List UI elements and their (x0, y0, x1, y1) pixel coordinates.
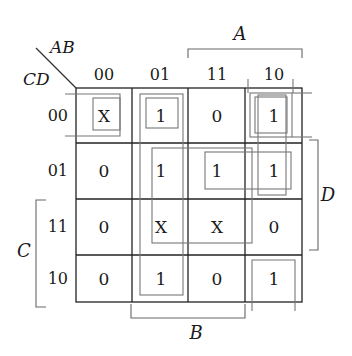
bracket-D (309, 140, 318, 250)
column-headers: 00 01 11 10 (94, 65, 284, 84)
bracket-D-label: D (320, 184, 336, 205)
cell-r0-c0: X (98, 106, 111, 126)
cell-r3-c2: 0 (212, 269, 223, 289)
karnaugh-map: AB CD 00 01 11 10 00 01 11 10 X 1 0 1 0 … (0, 0, 352, 356)
cell-r0-c2: 0 (212, 106, 223, 126)
row-header-00: 00 (48, 106, 68, 125)
cell-r2-c1: X (155, 217, 168, 237)
col-variables-label: AB (48, 37, 75, 57)
cell-r2-c3: 0 (269, 217, 280, 237)
row-header-11: 11 (48, 217, 68, 236)
bracket-C-label: C (17, 240, 31, 261)
col-header-01: 01 (150, 65, 170, 84)
cell-r2-c0: 0 (99, 217, 110, 237)
bracket-A (188, 49, 302, 58)
cell-r3-c0: 0 (99, 269, 110, 289)
cell-r3-c1: 1 (156, 269, 167, 289)
row-header-10: 10 (48, 269, 68, 288)
bracket-B-label: B (188, 322, 202, 343)
row-variables-label: CD (23, 69, 50, 89)
cell-r1-c2: 1 (212, 161, 223, 181)
cell-r1-c0: 0 (99, 161, 110, 181)
cell-r2-c2: X (211, 217, 224, 237)
bracket-B (131, 304, 245, 318)
cell-r0-c1: 1 (156, 106, 167, 126)
cell-r1-c1: 1 (156, 161, 167, 181)
col-header-00: 00 (94, 65, 114, 84)
col-header-10: 10 (264, 65, 284, 84)
row-headers: 00 01 11 10 (48, 106, 68, 288)
row-header-01: 01 (48, 161, 68, 180)
bracket-A-label: A (232, 23, 247, 44)
bracket-C (36, 200, 46, 307)
col-header-11: 11 (207, 65, 227, 84)
cell-r3-c3: 1 (269, 269, 280, 289)
cell-r0-c3: 1 (269, 106, 280, 126)
cell-r1-c3: 1 (269, 161, 280, 181)
